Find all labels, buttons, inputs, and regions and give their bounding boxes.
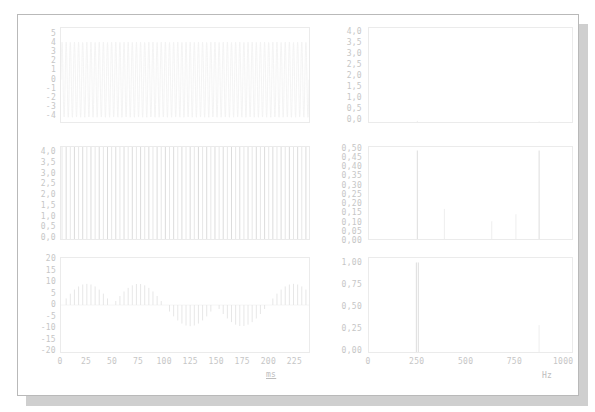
axes-time-carrier[interactable] bbox=[60, 27, 310, 123]
yaxis-spectrum-beat: 1,000,750,500,250,00 bbox=[322, 259, 362, 351]
y-tick-label: 5 bbox=[51, 290, 56, 298]
yaxis-spectrum-carrier: 4,03,53,02,52,01,51,00,50,0 bbox=[326, 28, 362, 120]
x-tick-label: 500 bbox=[458, 358, 473, 366]
y-tick-label: 0,25 bbox=[342, 191, 362, 199]
y-tick-label: 20 bbox=[46, 255, 56, 263]
axes-time-beat[interactable] bbox=[60, 257, 310, 353]
y-tick-label: 0,40 bbox=[342, 163, 362, 171]
x-tick-label: 50 bbox=[107, 358, 117, 366]
x-tick-label: 1000 bbox=[553, 358, 573, 366]
y-tick-label: -15 bbox=[41, 336, 56, 344]
panel-spectrum-harmonics: 0,500,450,400,350,300,250,200,150,100,05… bbox=[318, 135, 580, 245]
y-tick-label: 1,5 bbox=[41, 202, 56, 210]
x-tick-label: 0 bbox=[57, 358, 62, 366]
y-tick-label: 2,0 bbox=[41, 191, 56, 199]
y-tick-label: 0,15 bbox=[342, 209, 362, 217]
xaxis-title-frequency: Hz bbox=[542, 371, 552, 380]
x-tick-label: 225 bbox=[287, 358, 302, 366]
y-tick-label: 0,25 bbox=[342, 325, 362, 333]
y-tick-label: 0,00 bbox=[342, 237, 362, 245]
y-tick-label: 5 bbox=[51, 30, 56, 38]
y-tick-label: 1,0 bbox=[347, 94, 362, 102]
panel-time-carrier: 543210-1-2-3-4 bbox=[18, 15, 318, 135]
y-tick-label: 0,0 bbox=[347, 116, 362, 124]
y-tick-label: 2,5 bbox=[347, 61, 362, 69]
plot-spectrum-carrier bbox=[369, 28, 572, 122]
plot-spectrum-beat bbox=[369, 258, 572, 352]
panel-spectrum-carrier: 4,03,53,02,52,01,51,00,50,0 bbox=[318, 15, 580, 135]
plot-time-impulse bbox=[61, 147, 309, 239]
y-tick-label: 4,0 bbox=[347, 28, 362, 36]
x-tick-label: 125 bbox=[183, 358, 198, 366]
y-tick-label: 0,10 bbox=[342, 219, 362, 227]
xaxis-title-time: ms bbox=[266, 370, 276, 379]
y-tick-label: 3,0 bbox=[347, 50, 362, 58]
y-tick-label: 2,0 bbox=[347, 72, 362, 80]
y-tick-label: 4 bbox=[51, 39, 56, 47]
x-tick-label: 75 bbox=[133, 358, 143, 366]
y-tick-label: -5 bbox=[46, 313, 56, 321]
x-tick-label: 750 bbox=[507, 358, 522, 366]
y-tick-label: 3,0 bbox=[41, 170, 56, 178]
y-tick-label: 0,05 bbox=[342, 228, 362, 236]
y-tick-label: 0,00 bbox=[342, 347, 362, 355]
y-tick-label: 0,5 bbox=[41, 223, 56, 231]
x-tick-label: 175 bbox=[235, 358, 250, 366]
axes-time-impulse[interactable] bbox=[60, 146, 310, 240]
xaxis-frequency: 02505007501000 bbox=[368, 358, 573, 370]
panel-spectrum-beat: 1,000,750,500,250,00 02505007501000 bbox=[318, 245, 580, 370]
y-tick-label: 3 bbox=[51, 48, 56, 56]
yaxis-time-beat: 20151050-5-10-15-20 bbox=[22, 259, 56, 351]
y-tick-label: 0 bbox=[51, 76, 56, 84]
axes-spectrum-beat[interactable] bbox=[368, 257, 573, 353]
yaxis-spectrum-harmonics: 0,500,450,400,350,300,250,200,150,100,05… bbox=[320, 145, 362, 241]
panel-time-impulse: 4,03,53,02,52,01,51,00,50,0 bbox=[18, 135, 318, 245]
plot-time-carrier bbox=[61, 28, 309, 122]
x-tick-label: 25 bbox=[81, 358, 91, 366]
y-tick-label: 0,50 bbox=[342, 303, 362, 311]
figure-card: 543210-1-2-3-4 4,03,53,02,52,01,51,00,50… bbox=[17, 14, 579, 396]
y-tick-label: 4,0 bbox=[41, 148, 56, 156]
y-tick-label: 3,5 bbox=[41, 159, 56, 167]
y-tick-label: 0,20 bbox=[342, 200, 362, 208]
x-tick-label: 0 bbox=[365, 358, 370, 366]
y-tick-label: 0,5 bbox=[347, 105, 362, 113]
y-tick-label: 3,5 bbox=[347, 39, 362, 47]
y-tick-label: 10 bbox=[46, 278, 56, 286]
y-tick-label: -10 bbox=[41, 324, 56, 332]
y-tick-label: -20 bbox=[41, 347, 56, 355]
plot-time-beat bbox=[61, 258, 309, 352]
yaxis-time-carrier: 543210-1-2-3-4 bbox=[26, 29, 56, 121]
xaxis-time: 0255075100125150175200225 bbox=[60, 358, 310, 370]
y-tick-label: -2 bbox=[46, 94, 56, 102]
y-tick-label: 0,0 bbox=[41, 234, 56, 242]
y-tick-label: 0 bbox=[51, 301, 56, 309]
y-tick-label: -3 bbox=[46, 103, 56, 111]
y-tick-label: 0,45 bbox=[342, 154, 362, 162]
y-tick-label: 2 bbox=[51, 57, 56, 65]
x-tick-label: 250 bbox=[409, 358, 424, 366]
axes-spectrum-carrier[interactable] bbox=[368, 27, 573, 123]
y-tick-label: 2,5 bbox=[41, 180, 56, 188]
y-tick-label: 15 bbox=[46, 267, 56, 275]
axes-spectrum-harmonics[interactable] bbox=[368, 146, 573, 240]
y-tick-label: 0,35 bbox=[342, 172, 362, 180]
panel-time-beat: 20151050-5-10-15-20 02550751001251501752… bbox=[18, 245, 318, 370]
y-tick-label: 0,30 bbox=[342, 182, 362, 190]
time-domain-column: 543210-1-2-3-4 4,03,53,02,52,01,51,00,50… bbox=[18, 15, 318, 397]
y-tick-label: 0,75 bbox=[342, 281, 362, 289]
plot-spectrum-harmonics bbox=[369, 147, 572, 239]
x-tick-label: 150 bbox=[209, 358, 224, 366]
y-tick-label: 1,5 bbox=[347, 83, 362, 91]
y-tick-label: -4 bbox=[46, 112, 56, 120]
y-tick-label: 0,50 bbox=[342, 145, 362, 153]
x-tick-label: 200 bbox=[261, 358, 276, 366]
y-tick-label: 1,00 bbox=[342, 259, 362, 267]
x-tick-label: 100 bbox=[156, 358, 171, 366]
y-tick-label: -1 bbox=[46, 85, 56, 93]
yaxis-time-impulse: 4,03,53,02,52,01,51,00,50,0 bbox=[20, 148, 56, 238]
frequency-domain-column: 4,03,53,02,52,01,51,00,50,0 0,500,450,40… bbox=[318, 15, 580, 397]
y-tick-label: 1,0 bbox=[41, 213, 56, 221]
carrier-waveform bbox=[61, 42, 309, 117]
y-tick-label: 1 bbox=[51, 66, 56, 74]
